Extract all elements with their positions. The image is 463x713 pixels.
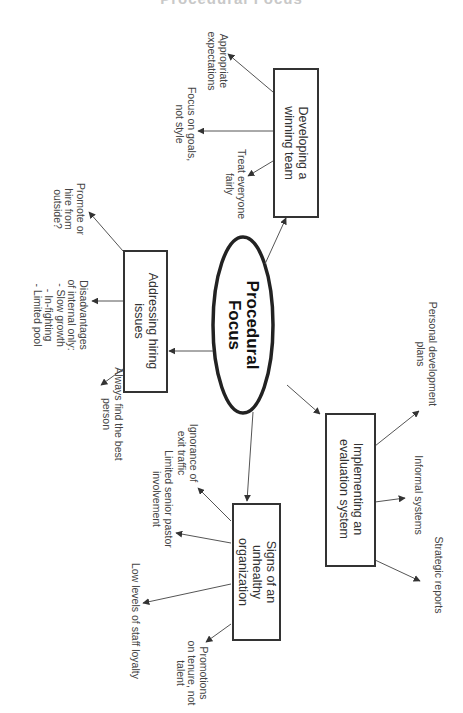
- leaf-promote-or-hire: Promote or hire from outside?: [50, 176, 86, 242]
- branch-label-unhealthy-org: Signs of an unhealthy organization: [234, 522, 278, 622]
- leaf-focus-on-goals: Focus on goals, not style: [173, 84, 197, 164]
- branch-label-hiring-issues: Addressing hiring issues: [130, 266, 160, 376]
- leaf-informal-systems: Informal systems: [410, 450, 424, 540]
- leaf-low-staff-loyalty: Low levels of staff loyalty: [127, 551, 141, 691]
- leaf-ignorance-exit-traffic: Ignorance of exit traffic: [175, 418, 199, 488]
- leaf-strategic-reports: Strategic reports: [430, 525, 444, 625]
- leaf-promotions-on-tenure: Promotions on tenure, not talent: [173, 633, 209, 713]
- branch-label-winning-team: Developing a winning team: [280, 88, 310, 198]
- leaf-limited-senior-pastor: Limited senior pastor involvement: [150, 444, 174, 554]
- leaf-treat-everyone-fairly: Treat everyone fairly: [223, 144, 247, 224]
- leaf-appropriate-expectations: Appropriate expectations: [205, 21, 229, 101]
- center-node-label: Procedural Focus: [225, 275, 261, 375]
- leaf-personal-development-plans: Personal development plans: [414, 297, 438, 411]
- leaf-always-find-best: Always find the best person: [100, 359, 124, 469]
- leaf-disadvantages-internal: Disadvantages of internal only: - Slow g…: [31, 270, 89, 360]
- branch-label-evaluation-system: Implementing an evaluation system: [335, 429, 365, 549]
